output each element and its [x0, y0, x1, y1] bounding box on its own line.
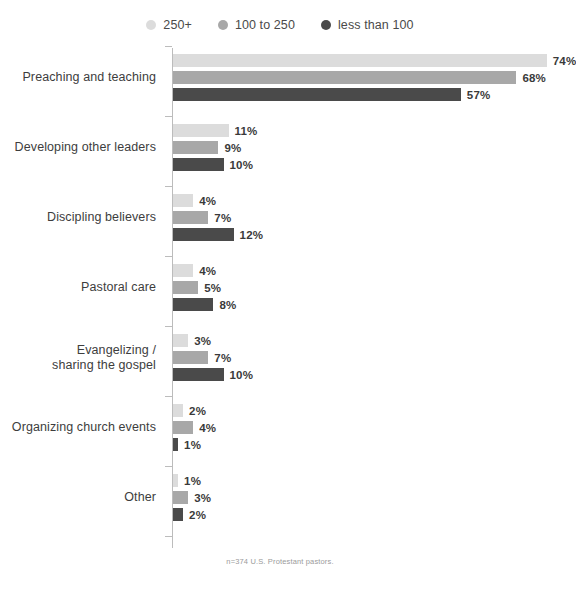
- bar-stack: 4%5%8%: [173, 264, 236, 311]
- bar-row[interactable]: 5%: [173, 281, 236, 294]
- bar-group: Pastoral care4%5%8%: [0, 264, 560, 311]
- bar-value-label: 9%: [224, 142, 241, 154]
- category-label: Other: [0, 490, 164, 505]
- bar-value-label: 2%: [189, 509, 206, 521]
- category-label: Organizing church events: [0, 420, 164, 435]
- bar-row[interactable]: 8%: [173, 298, 236, 311]
- bar[interactable]: [173, 228, 234, 241]
- legend-swatch-icon: [321, 20, 331, 30]
- bar-group: Discipling believers4%7%12%: [0, 194, 560, 241]
- bar[interactable]: [173, 508, 183, 521]
- chart-legend: 250+ 100 to 250 less than 100: [0, 18, 560, 32]
- bar-row[interactable]: 7%: [173, 351, 253, 364]
- bar[interactable]: [173, 298, 213, 311]
- bar-group: Developing other leaders11%9%10%: [0, 124, 560, 171]
- bar-value-label: 7%: [214, 352, 231, 364]
- bar-value-label: 1%: [184, 439, 201, 451]
- legend-swatch-icon: [146, 20, 156, 30]
- bar[interactable]: [173, 211, 208, 224]
- bar-value-label: 3%: [194, 335, 211, 347]
- legend-label: 100 to 250: [235, 18, 295, 32]
- bar-value-label: 4%: [199, 422, 216, 434]
- legend-item-250-plus[interactable]: 250+: [146, 18, 192, 32]
- bar[interactable]: [173, 194, 193, 207]
- category-label: Evangelizing /sharing the gospel: [0, 343, 164, 373]
- category-label: Pastoral care: [0, 280, 164, 295]
- bar[interactable]: [173, 438, 178, 451]
- bar-value-label: 11%: [235, 125, 258, 137]
- category-label: Preaching and teaching: [0, 70, 164, 85]
- legend-swatch-icon: [218, 20, 228, 30]
- bar-stack: 11%9%10%: [173, 124, 258, 171]
- bar-row[interactable]: 11%: [173, 124, 258, 137]
- bar-row[interactable]: 2%: [173, 508, 211, 521]
- bar-value-label: 10%: [230, 159, 254, 171]
- bar[interactable]: [173, 54, 547, 67]
- bar-row[interactable]: 10%: [173, 158, 258, 171]
- bar-stack: 74%68%57%: [173, 54, 576, 101]
- bar[interactable]: [173, 368, 224, 381]
- legend-item-100-to-250[interactable]: 100 to 250: [218, 18, 295, 32]
- bar-value-label: 4%: [199, 265, 216, 277]
- bar-value-label: 8%: [219, 299, 236, 311]
- bar[interactable]: [173, 491, 188, 504]
- bar-value-label: 5%: [204, 282, 221, 294]
- bar-row[interactable]: 12%: [173, 228, 263, 241]
- bar[interactable]: [173, 334, 188, 347]
- bar-group: Preaching and teaching74%68%57%: [0, 54, 560, 101]
- bar-row[interactable]: 74%: [173, 54, 576, 67]
- legend-label: less than 100: [338, 18, 414, 32]
- bar-stack: 4%7%12%: [173, 194, 263, 241]
- bar-row[interactable]: 68%: [173, 71, 576, 84]
- axis-tick: [165, 46, 172, 47]
- bar-group: Evangelizing /sharing the gospel3%7%10%: [0, 334, 560, 381]
- bar-value-label: 68%: [522, 72, 546, 84]
- bar-value-label: 2%: [189, 405, 206, 417]
- axis-tick: [165, 256, 172, 257]
- bar-row[interactable]: 7%: [173, 211, 263, 224]
- bar-stack: 3%7%10%: [173, 334, 253, 381]
- axis-tick: [165, 536, 172, 537]
- bar-row[interactable]: 57%: [173, 88, 576, 101]
- bar-row[interactable]: 1%: [173, 438, 216, 451]
- bar[interactable]: [173, 71, 516, 84]
- bar-value-label: 7%: [214, 212, 231, 224]
- category-label: Discipling believers: [0, 210, 164, 225]
- bar-row[interactable]: 4%: [173, 264, 236, 277]
- bar[interactable]: [173, 281, 198, 294]
- bar-row[interactable]: 4%: [173, 194, 263, 207]
- bar[interactable]: [173, 474, 178, 487]
- axis-tick: [165, 116, 172, 117]
- legend-label: 250+: [163, 18, 192, 32]
- bar[interactable]: [173, 141, 218, 154]
- bar-value-label: 3%: [194, 492, 211, 504]
- bar-stack: 1%3%2%: [173, 474, 211, 521]
- bar[interactable]: [173, 351, 208, 364]
- bar-row[interactable]: 10%: [173, 368, 253, 381]
- bar[interactable]: [173, 124, 229, 137]
- bar-group: Organizing church events2%4%1%: [0, 404, 560, 451]
- bar-value-label: 4%: [199, 195, 216, 207]
- bar[interactable]: [173, 264, 193, 277]
- bar-row[interactable]: 3%: [173, 334, 253, 347]
- bar-row[interactable]: 4%: [173, 421, 216, 434]
- bar[interactable]: [173, 88, 461, 101]
- category-label: Developing other leaders: [0, 140, 164, 155]
- bar-row[interactable]: 3%: [173, 491, 211, 504]
- axis-tick: [165, 396, 172, 397]
- bar-row[interactable]: 1%: [173, 474, 211, 487]
- bar[interactable]: [173, 421, 193, 434]
- legend-item-less-than-100[interactable]: less than 100: [321, 18, 414, 32]
- bar-row[interactable]: 2%: [173, 404, 216, 417]
- bar-group: Other1%3%2%: [0, 474, 560, 521]
- axis-tick: [165, 466, 172, 467]
- bar-value-label: 74%: [553, 55, 576, 67]
- bar[interactable]: [173, 404, 183, 417]
- bar[interactable]: [173, 158, 224, 171]
- bar-value-label: 57%: [467, 89, 491, 101]
- bar-stack: 2%4%1%: [173, 404, 216, 451]
- bar-row[interactable]: 9%: [173, 141, 258, 154]
- axis-tick: [165, 326, 172, 327]
- bar-value-label: 1%: [184, 475, 201, 487]
